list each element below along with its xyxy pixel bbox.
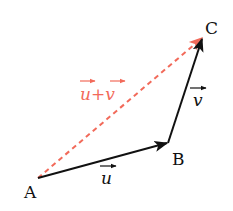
vector-addition-diagram: A B C u v u+v	[0, 0, 233, 211]
point-label-c: C	[205, 18, 218, 38]
diagram-canvas: A B C u v u+v	[0, 0, 233, 211]
resultant-label-v: v	[105, 84, 115, 104]
resultant-label-u: u	[80, 84, 91, 104]
resultant-label-plus: +	[91, 84, 105, 104]
point-label-a: A	[23, 182, 37, 202]
vector-label-u: u	[101, 168, 112, 188]
resultant-label: u+v	[80, 84, 115, 104]
vector-label-v: v	[193, 90, 203, 110]
point-label-b: B	[172, 149, 185, 169]
